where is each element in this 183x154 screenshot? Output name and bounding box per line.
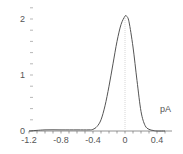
y-tick-label: 2 — [20, 14, 25, 24]
x-tick-label: -1.2 — [21, 135, 37, 145]
chart: 012 -1.2-0.8-0.400.4 pA — [0, 0, 183, 154]
x-tick-label: -0.8 — [53, 135, 69, 145]
x-tick-label: 0.4 — [151, 135, 164, 145]
x-tick-label: 0 — [122, 135, 127, 145]
x-axis: -1.2-0.8-0.400.4 — [21, 131, 172, 145]
distribution-curve — [29, 15, 165, 131]
y-axis: 012 — [20, 8, 33, 136]
x-tick-label: -0.4 — [85, 135, 101, 145]
y-tick-label: 1 — [20, 70, 25, 80]
x-unit-label: pA — [160, 104, 171, 114]
